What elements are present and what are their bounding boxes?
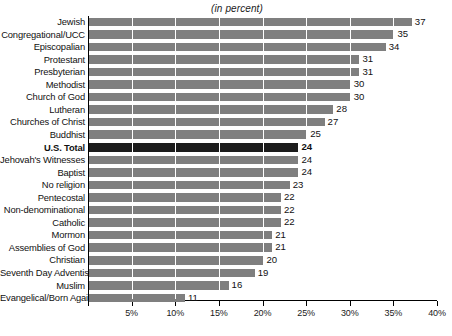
bar (89, 105, 333, 114)
bar (89, 130, 307, 139)
bar (89, 156, 298, 165)
bar (89, 143, 298, 152)
bar-value-label: 25 (310, 129, 321, 139)
category-label: Christian (0, 255, 85, 265)
bar-value-label: 22 (284, 192, 295, 202)
gridline-15 (219, 17, 220, 299)
bar-value-label: 22 (284, 205, 295, 215)
category-label: Church of God (0, 92, 85, 102)
gridline-20 (263, 17, 264, 299)
bar-value-label: 24 (301, 167, 312, 177)
category-label: Non-denominational (0, 205, 85, 215)
bar-value-label: 28 (336, 104, 347, 114)
bar-value-label: 35 (397, 29, 408, 39)
category-label: Catholic (0, 218, 85, 228)
bar-value-label: 24 (301, 142, 312, 152)
category-label: Presbyterian (0, 67, 85, 77)
category-label: Episcopalian (0, 42, 85, 52)
category-label: Evangelical/Born Again (0, 293, 85, 303)
chart-title: (in percent) (0, 3, 452, 14)
bar (89, 55, 359, 64)
category-label: Protestant (0, 55, 85, 65)
gridline-30 (350, 17, 351, 299)
bar-value-label: 21 (275, 230, 286, 240)
category-label: No religion (0, 180, 85, 190)
bar-value-label: 23 (293, 180, 304, 190)
bar-value-label: 27 (328, 117, 339, 127)
bar-value-label: 30 (354, 79, 365, 89)
bar (89, 231, 272, 240)
bar-value-label: 16 (232, 280, 243, 290)
bar (89, 193, 281, 202)
category-label: Seventh Day Adventist (0, 268, 85, 278)
bar-value-label: 24 (301, 155, 312, 165)
bar (89, 93, 351, 102)
bar (89, 181, 290, 190)
bar (89, 18, 412, 27)
x-tick-label-40: 40% (419, 308, 452, 318)
bar-value-label: 11 (188, 293, 198, 303)
category-label: Methodist (0, 80, 85, 90)
x-tick-label-10: 10% (157, 308, 193, 318)
bar-value-label: 37 (415, 17, 426, 27)
bar-value-label: 34 (389, 42, 400, 52)
bar (89, 30, 394, 39)
category-label: Jehovah's Witnesses (0, 155, 85, 165)
category-label: U.S. Total (0, 143, 85, 153)
category-label: Baptist (0, 168, 85, 178)
bar (89, 256, 264, 265)
bar (89, 80, 351, 89)
category-label: Buddhist (0, 130, 85, 140)
bar-value-label: 30 (354, 92, 365, 102)
category-label: Jewish (0, 17, 85, 27)
bar-value-label: 20 (267, 255, 278, 265)
bar (89, 118, 325, 127)
bar-value-label: 19 (258, 268, 269, 278)
chart-row: Evangelical/Born Again11 (0, 293, 452, 306)
bar (89, 206, 281, 215)
category-label: Lutheran (0, 105, 85, 115)
bar (89, 243, 272, 252)
category-label: Pentecostal (0, 193, 85, 203)
x-tick-label-35: 35% (375, 308, 411, 318)
x-tick-label-30: 30% (332, 308, 368, 318)
bar (89, 269, 255, 278)
bar-chart: (in percent) 5%10%15%20%25%30%35%40% Jew… (0, 0, 452, 336)
bar-value-label: 31 (362, 67, 373, 77)
x-tick-label-20: 20% (245, 308, 281, 318)
bar-value-label: 31 (362, 54, 373, 64)
gridline-5 (132, 17, 133, 299)
x-tick-label-25: 25% (288, 308, 324, 318)
chart-row: Buddhist25 (0, 130, 452, 143)
gridline-40 (437, 17, 438, 299)
bar (89, 168, 298, 177)
category-label: Assemblies of God (0, 243, 85, 253)
gridline-35 (393, 17, 394, 299)
bar (89, 43, 386, 52)
category-label: Churches of Christ (0, 117, 85, 127)
x-tick-label-15: 15% (201, 308, 237, 318)
category-label: Muslim (0, 281, 85, 291)
bar (89, 218, 281, 227)
category-label: Congregational/UCC (0, 30, 85, 40)
category-label: Mormon (0, 230, 85, 240)
bar-value-label: 21 (275, 242, 286, 252)
bar-value-label: 22 (284, 217, 295, 227)
bar (89, 68, 359, 77)
x-tick-label-5: 5% (114, 308, 150, 318)
bar (89, 281, 229, 290)
bar (89, 294, 185, 303)
gridline-10 (175, 17, 176, 299)
